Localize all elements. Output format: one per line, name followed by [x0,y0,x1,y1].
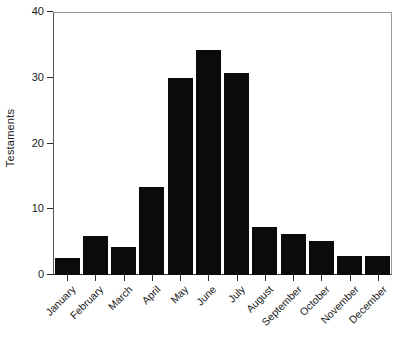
x-tick-mark [293,275,294,281]
x-tick-mark [321,275,322,281]
bar-july [224,73,249,275]
x-tick-mark [124,275,125,281]
y-tick-mark [47,77,53,78]
x-tick-label-june: June [194,283,219,308]
y-tick-mark [47,11,53,12]
y-axis-title-text: Testaments [4,108,16,166]
bar-december [365,256,390,275]
y-tick-mark [47,208,53,209]
x-tick-mark [237,275,238,281]
bar-march [111,247,136,275]
y-axis-title: Testaments [0,0,20,275]
x-tick-mark [350,275,351,281]
x-tick-label-march: March [105,283,134,312]
y-tick-label: 30 [32,71,44,83]
bar-april [139,187,164,275]
bar-october [309,241,334,275]
y-tick-label: 10 [32,202,44,214]
bar-may [168,78,193,275]
x-tick-label-july: July [226,283,248,305]
bar-november [337,256,362,275]
bar-august [252,227,277,275]
x-tick-label-april: April [139,283,162,306]
y-tick-mark [47,274,53,275]
bar-february [83,236,108,275]
x-tick-label-may: May [168,283,191,306]
bar-september [281,234,306,275]
x-tick-mark [67,275,68,281]
y-tick-label: 40 [32,5,44,17]
x-tick-mark [152,275,153,281]
x-tick-mark [180,275,181,281]
bar-chart: Testaments 010203040 JanuaryFebruaryMarc… [0,0,402,338]
x-tick-mark [378,275,379,281]
x-tick-mark [95,275,96,281]
y-tick-label: 20 [32,137,44,149]
bar-june [196,50,221,275]
x-tick-mark [208,275,209,281]
y-tick-label: 0 [38,268,44,280]
x-tick-mark [265,275,266,281]
bar-january [55,258,80,275]
y-tick-mark [47,143,53,144]
